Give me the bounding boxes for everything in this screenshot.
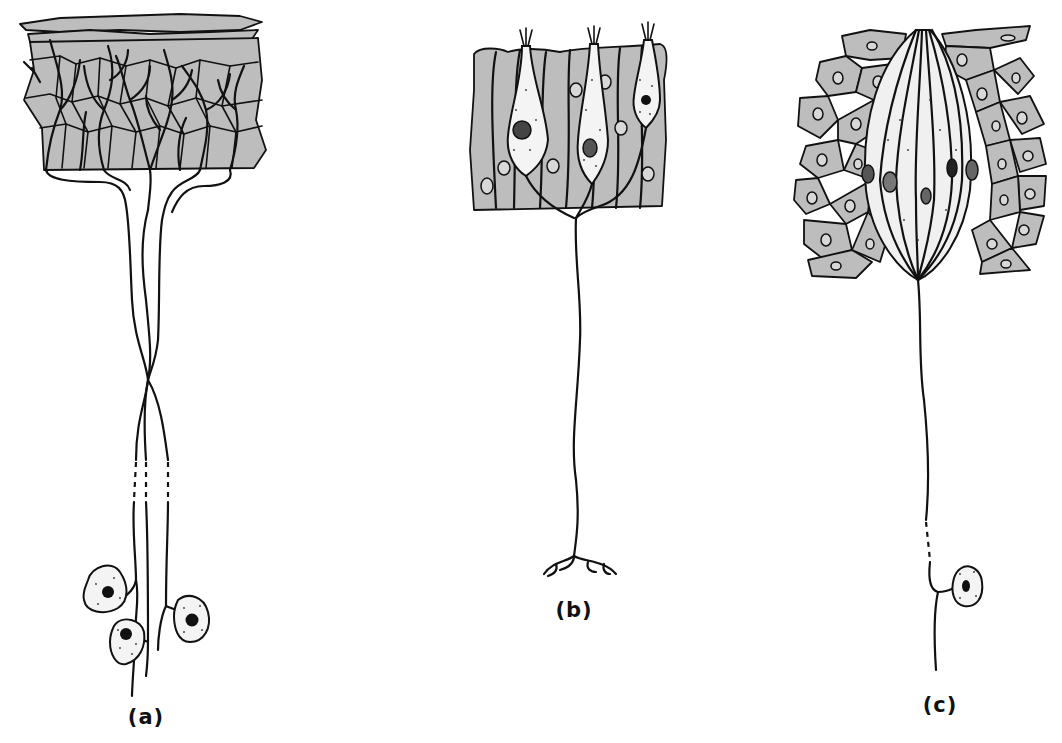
panel-c-label: (c) <box>923 693 958 717</box>
panel-b-label: (b) <box>555 598 592 622</box>
figure-drawing <box>0 0 1062 743</box>
panel-a-label: (a) <box>128 705 164 729</box>
sensory-neuron-figure: (a) (b) (c) <box>0 0 1062 743</box>
panel-a-drawing <box>20 14 266 696</box>
panel-c-drawing <box>794 26 1046 670</box>
panel-b-drawing <box>470 22 667 576</box>
